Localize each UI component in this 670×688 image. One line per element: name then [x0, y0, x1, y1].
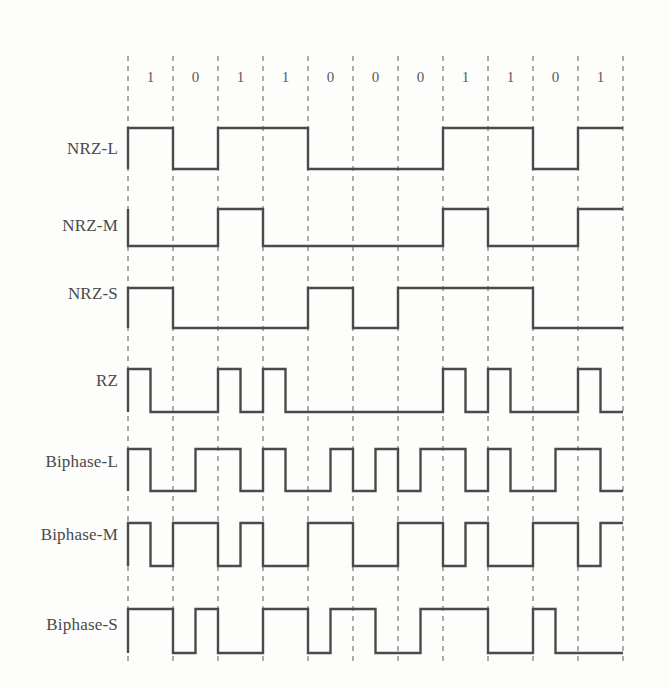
encoding-row-labels: NRZ-LNRZ-MNRZ-SRZBiphase-LBiphase-MBipha…	[41, 139, 118, 634]
waveform-canvas: 10110001101 NRZ-LNRZ-MNRZ-SRZBiphase-LBi…	[0, 0, 670, 688]
waveform-traces	[128, 128, 623, 653]
bit-label-4: 0	[327, 69, 335, 85]
bit-label-8: 1	[507, 69, 515, 85]
bit-label-3: 1	[282, 69, 290, 85]
waveform-nrz-s	[128, 288, 623, 328]
row-label-nrz-s: NRZ-S	[68, 284, 118, 303]
bit-label-5: 0	[372, 69, 380, 85]
waveform-biphase-s	[128, 609, 623, 653]
bit-label-1: 0	[192, 69, 200, 85]
waveform-biphase-m	[128, 523, 623, 566]
bit-label-2: 1	[237, 69, 245, 85]
row-label-biphase-l: Biphase-L	[45, 452, 118, 471]
waveform-rz	[128, 369, 623, 412]
waveform-nrz-l	[128, 128, 623, 169]
row-label-biphase-m: Biphase-M	[41, 525, 118, 544]
bit-sequence-labels: 10110001101	[147, 69, 605, 85]
bit-label-0: 1	[147, 69, 155, 85]
bit-label-7: 1	[462, 69, 470, 85]
row-label-rz: RZ	[96, 371, 118, 390]
bit-label-9: 0	[552, 69, 560, 85]
encoding-diagram: 10110001101 NRZ-LNRZ-MNRZ-SRZBiphase-LBi…	[0, 0, 670, 688]
grid-lines	[128, 56, 623, 661]
bit-label-6: 0	[417, 69, 425, 85]
waveform-biphase-l	[128, 449, 623, 491]
waveform-nrz-m	[128, 209, 623, 246]
bit-label-10: 1	[597, 69, 605, 85]
row-label-nrz-l: NRZ-L	[67, 139, 118, 158]
row-label-biphase-s: Biphase-S	[46, 615, 118, 634]
row-label-nrz-m: NRZ-M	[62, 216, 118, 235]
